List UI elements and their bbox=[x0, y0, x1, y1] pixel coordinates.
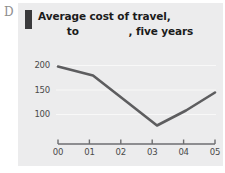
chart-card: Average cost of travel, to , five years bbox=[18, 3, 223, 166]
x-tick-label-05: 05 bbox=[205, 147, 225, 157]
x-axis bbox=[58, 140, 215, 145]
plot-area: 200 150 100 00 01 02 03 04 05 bbox=[18, 3, 223, 166]
x-tick-label-00: 00 bbox=[48, 147, 68, 157]
y-tick-label-200: 200 bbox=[24, 60, 50, 70]
data-line-series-1 bbox=[58, 67, 215, 126]
x-tick-label-04: 04 bbox=[174, 147, 194, 157]
x-tick-label-02: 02 bbox=[111, 147, 131, 157]
y-tick-label-100: 100 bbox=[24, 109, 50, 119]
chart-figure: D Average cost of travel, to , five year… bbox=[0, 0, 225, 173]
x-tick-label-03: 03 bbox=[142, 147, 162, 157]
panel-letter: D bbox=[4, 5, 14, 19]
y-tick-label-150: 150 bbox=[24, 85, 50, 95]
x-tick-label-01: 01 bbox=[79, 147, 99, 157]
